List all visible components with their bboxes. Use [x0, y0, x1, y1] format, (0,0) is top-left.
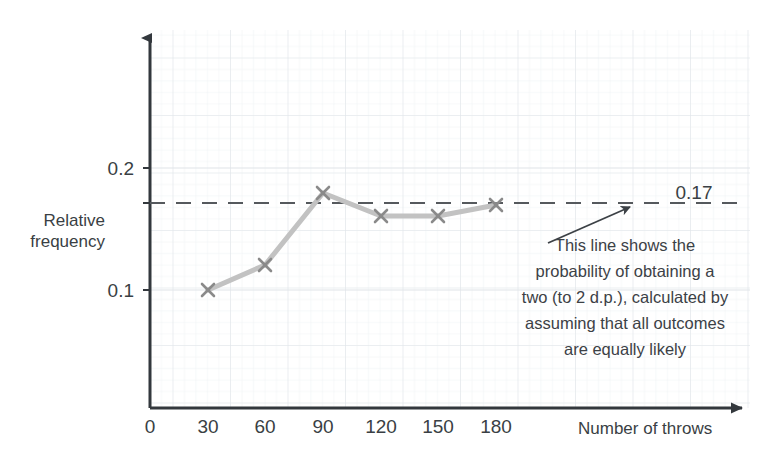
chart-svg: 0.2 0.1 Relative frequency 0 30 60 90 12… [0, 0, 775, 463]
x-tick-label-0: 0 [145, 416, 156, 437]
annotation-line-2: probability of obtaining a [536, 262, 716, 280]
x-tick-label-90: 90 [312, 416, 333, 437]
annotation-line-5: are equally likely [564, 340, 687, 358]
x-tick-label-150: 150 [422, 416, 454, 437]
y-axis-title-line2: frequency [30, 232, 105, 251]
x-tick-label-60: 60 [254, 416, 275, 437]
y-tick-label-1: 0.1 [108, 280, 134, 301]
reference-line-value-label: 0.17 [676, 182, 713, 203]
x-tick-label-120: 120 [365, 416, 397, 437]
annotation-line-1: This line shows the [555, 236, 695, 254]
annotation-line-4: assuming that all outcomes [525, 314, 725, 332]
relative-frequency-chart: 0.2 0.1 Relative frequency 0 30 60 90 12… [0, 0, 775, 463]
x-tick-label-30: 30 [197, 416, 218, 437]
x-tick-label-180: 180 [480, 416, 512, 437]
y-axis-title-line1: Relative [44, 211, 105, 230]
y-tick-label-0: 0.2 [108, 158, 134, 179]
annotation-line-3: two (to 2 d.p.), calculated by [522, 288, 729, 306]
x-axis-title: Number of throws [578, 419, 712, 438]
